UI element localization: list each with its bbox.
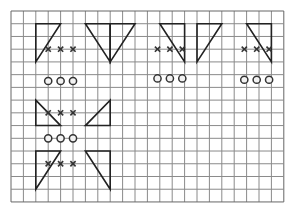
cross-marks	[46, 47, 272, 167]
circle-icon	[45, 77, 52, 84]
circle-icon	[266, 76, 273, 83]
circle-icon	[45, 135, 52, 142]
grid-lines	[11, 11, 284, 202]
circle-icon	[57, 77, 64, 84]
circle-icon	[69, 135, 76, 142]
circle-icon	[253, 76, 260, 83]
circle-icon	[69, 77, 76, 84]
circle-marks	[45, 75, 273, 142]
grid-diagram	[0, 0, 287, 212]
circle-icon	[57, 135, 64, 142]
circle-icon	[179, 75, 186, 82]
triangle-shapes	[36, 24, 272, 189]
circle-icon	[241, 76, 248, 83]
circle-icon	[154, 75, 161, 82]
circle-icon	[166, 75, 173, 82]
